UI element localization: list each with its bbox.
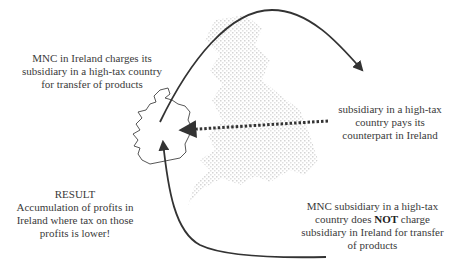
ireland-map-icon xyxy=(133,88,192,164)
subsidiary-pays-label: subsidiary in a high-tax country pays it… xyxy=(330,103,450,142)
no-charge-label: MNC subsidiary in a high-tax country doe… xyxy=(300,200,445,252)
no-charge-emphasis: NOT xyxy=(374,213,398,225)
ireland-charges-label: MNC in Ireland charges its subsidiary in… xyxy=(22,52,162,91)
result-label: RESULT Accumulation of profits in Irelan… xyxy=(10,188,140,240)
britain-map-icon xyxy=(188,15,318,205)
result-body: Accumulation of profits in Ireland where… xyxy=(10,201,140,240)
result-title: RESULT xyxy=(10,188,140,201)
